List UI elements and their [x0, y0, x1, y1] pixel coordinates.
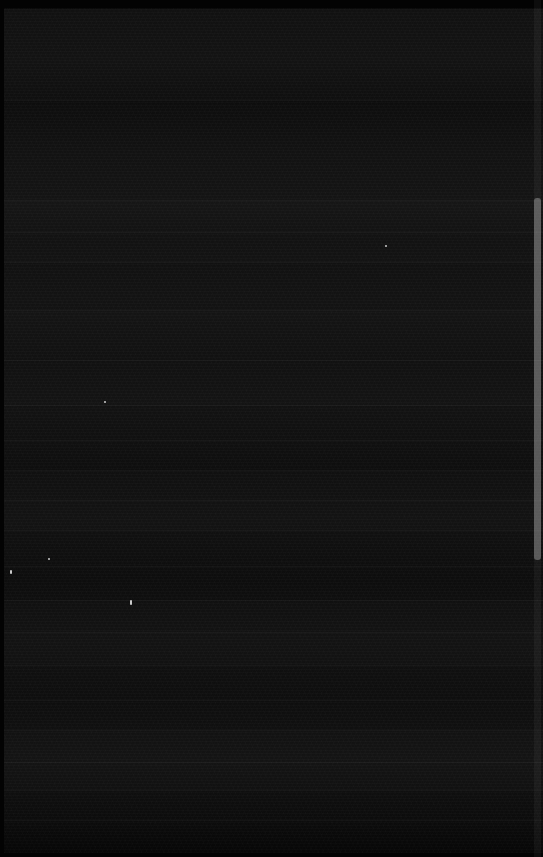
- vertical-scrollbar-thumb[interactable]: [534, 198, 541, 560]
- screen-capture: blank-dark-screen Near-black screen capt…: [0, 0, 543, 857]
- luminance-bands: [0, 0, 543, 857]
